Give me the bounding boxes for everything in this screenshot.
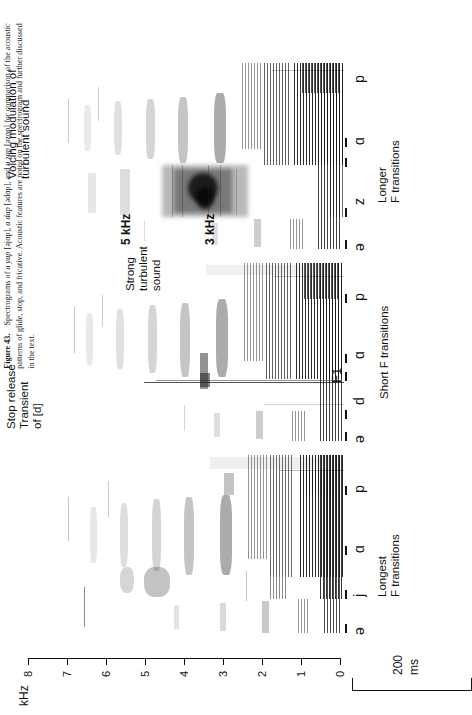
utterance-3: a zap [3, 148, 12, 166]
utterance-2-ipa: [ədɑp], and [3, 166, 12, 208]
utterance-2: a dap [3, 207, 12, 225]
utterance-1-ipa: [əjɑp], [3, 226, 12, 252]
utterance-3-ipa: [əzɑp] [3, 125, 12, 148]
caption-text-1: Spectrograms of [3, 270, 12, 326]
utterance-1: a yap [3, 252, 12, 270]
figure-number: Figure 43. [3, 334, 12, 369]
